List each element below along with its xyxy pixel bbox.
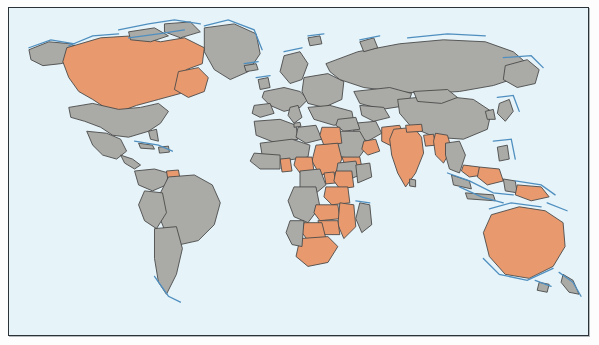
country-philippines — [497, 145, 509, 161]
country-ghana — [280, 158, 292, 172]
country-zambia — [314, 205, 340, 221]
map-frame-border — [8, 7, 589, 336]
country-nepal — [406, 124, 423, 132]
world-map-canvas — [9, 8, 588, 335]
world-map-figure: Highlighted Other — [0, 0, 599, 345]
country-korea — [485, 109, 495, 119]
country-iceland — [244, 64, 258, 72]
country-svalbard — [308, 36, 322, 46]
country-sicily-med — [294, 122, 301, 127]
country-srilanka — [410, 179, 416, 187]
country-egypt — [320, 127, 342, 145]
country-uk-ireland — [258, 78, 270, 90]
